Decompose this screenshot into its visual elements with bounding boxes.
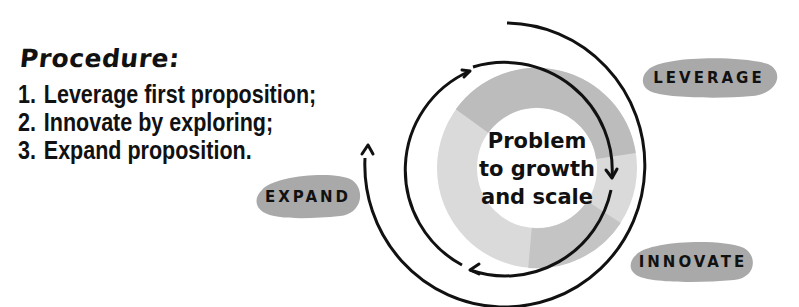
center-title-line3: and scale	[481, 185, 593, 209]
growth-cycle-diagram: Problem to growth and scale LEVERAGE EXP…	[0, 0, 799, 307]
center-title-line1: Problem	[488, 129, 587, 153]
expand-label: EXPAND	[265, 188, 351, 206]
center-title-line2: to growth	[479, 157, 595, 181]
leverage-label: LEVERAGE	[653, 69, 764, 87]
arrow-head-icon	[470, 264, 479, 274]
arrow-up-icon	[362, 145, 373, 154]
innovate-label: INNOVATE	[639, 253, 748, 271]
